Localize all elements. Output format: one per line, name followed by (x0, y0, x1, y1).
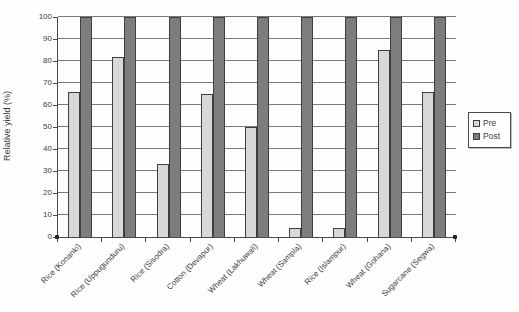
bar-post (434, 17, 446, 237)
bar-pre (245, 127, 257, 237)
bar-post (169, 17, 181, 237)
y-tick-label: 90 (12, 35, 52, 43)
legend-swatch-pre (473, 120, 480, 127)
y-axis-tick (53, 39, 57, 40)
x-axis-tick (411, 238, 412, 242)
bar-pre (422, 92, 434, 237)
legend-item-pre: Pre (473, 117, 507, 130)
bar-group (102, 17, 146, 237)
bar-post (390, 17, 402, 237)
bar-post (345, 17, 357, 237)
bar-chart-figure: Relative yield (%) 010203040506070809010… (0, 0, 519, 312)
bar-pre (112, 57, 124, 237)
bar-post (301, 17, 313, 237)
bar-group (191, 17, 235, 237)
bar-pre (333, 228, 345, 237)
bar-group (323, 17, 367, 237)
x-axis-tick (234, 238, 235, 242)
bar-pre (68, 92, 80, 237)
legend-swatch-post (473, 133, 480, 140)
y-axis-tick (53, 105, 57, 106)
x-axis-tick (322, 238, 323, 242)
y-tick-label: 20 (12, 189, 52, 197)
bar-pre (201, 94, 213, 237)
y-tick-label: 70 (12, 79, 52, 87)
y-tick-label: 40 (12, 145, 52, 153)
bar-post (257, 17, 269, 237)
y-axis-tick (53, 215, 57, 216)
y-tick-label: 80 (12, 57, 52, 65)
legend: PrePost (468, 112, 511, 148)
y-tick-label: 0 (12, 233, 52, 241)
legend-label: Pre (483, 119, 496, 128)
y-tick-label: 60 (12, 101, 52, 109)
bar-group (279, 17, 323, 237)
y-tick-label: 30 (12, 167, 52, 175)
legend-label: Post (483, 132, 500, 141)
x-axis-tick (145, 238, 146, 242)
bar-pre (378, 50, 390, 237)
x-axis-tick (278, 238, 279, 242)
plot-area (57, 17, 456, 238)
y-axis-tick (53, 61, 57, 62)
bar-post (213, 17, 225, 237)
x-axis-tick (101, 238, 102, 242)
bar-group (412, 17, 456, 237)
bar-group (58, 17, 102, 237)
y-axis-tick (53, 193, 57, 194)
y-axis-title: Relative yield (%) (2, 70, 12, 182)
bar-pre (289, 228, 301, 237)
bar-pre (157, 164, 169, 237)
y-tick-label: 100 (12, 13, 52, 21)
y-axis-tick (53, 127, 57, 128)
y-tick-label: 50 (12, 123, 52, 131)
y-axis-tick (53, 171, 57, 172)
bar-group (235, 17, 279, 237)
y-axis-tick (53, 149, 57, 150)
y-axis-tick (53, 17, 57, 18)
bar-post (124, 17, 136, 237)
legend-item-post: Post (473, 130, 507, 143)
bar-group (368, 17, 412, 237)
y-axis-tick (53, 83, 57, 84)
y-tick-label: 10 (12, 211, 52, 219)
bar-post (80, 17, 92, 237)
bar-group (146, 17, 190, 237)
x-axis-tick (190, 238, 191, 242)
x-axis-tick (367, 238, 368, 242)
